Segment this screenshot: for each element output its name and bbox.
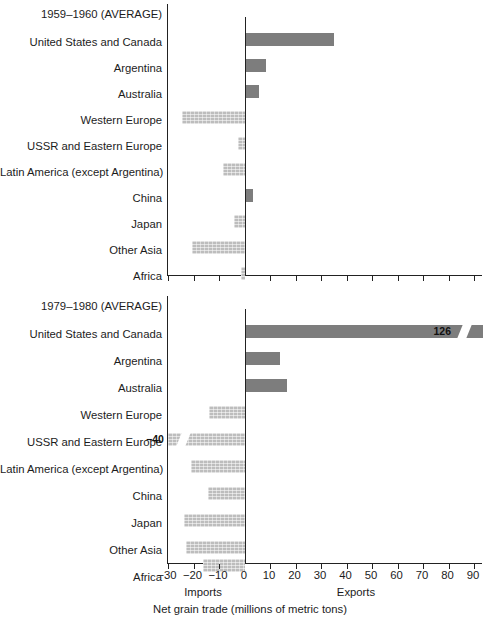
- axis-break-marker: [176, 433, 190, 446]
- row-label-china: China: [0, 490, 162, 502]
- row-label-western-europe: Western Europe: [0, 409, 162, 421]
- chart-panel-1979-1980: 1979–1980 (AVERAGE) United States and Ca…: [0, 292, 486, 619]
- tick-top--10: [219, 276, 220, 281]
- axis-caption-exports: Exports: [316, 586, 396, 598]
- bar-top-other-asia: [192, 241, 245, 254]
- row-label-japan: Japan: [0, 517, 162, 529]
- row-label-japan: Japan: [0, 218, 162, 230]
- tick-top-20: [296, 276, 297, 281]
- tick-top-60: [398, 276, 399, 281]
- row-label-africa: Africa: [0, 270, 162, 282]
- bar-top-japan: [234, 215, 245, 228]
- plot-area-top: [167, 4, 482, 276]
- bar-top-western-europe: [182, 111, 245, 124]
- tick-top-80: [449, 276, 450, 281]
- bar-top-united-states-and-canada: [246, 33, 334, 46]
- plot-area-bottom: 126 −40: [167, 296, 482, 564]
- row-label-argentina: Argentina: [0, 62, 162, 74]
- bar-value-label-united-states-and-canada: 126: [433, 325, 451, 338]
- tick-top-90: [474, 276, 475, 281]
- bar-top-china: [246, 189, 253, 202]
- bar-bottom-ussr-and-eastern-europe: −40: [168, 433, 245, 446]
- bar-top-australia: [246, 85, 259, 98]
- zero-axis-line-bottom: [245, 309, 246, 564]
- row-label-australia: Australia: [0, 88, 162, 100]
- tick-top--20: [194, 276, 195, 281]
- bar-value-label-ussr-and-eastern-europe: −40: [146, 433, 164, 446]
- row-label-ussr-and-eastern-europe: USSR and Eastern Europe: [0, 436, 162, 448]
- bar-top-ussr-and-eastern-europe: [238, 137, 245, 150]
- tick-top-10: [270, 276, 271, 281]
- row-label-united-states-and-canada: United States and Canada: [0, 328, 162, 340]
- tick-label-90: 90: [453, 569, 486, 581]
- tick-top-30: [321, 276, 322, 281]
- tick-top-70: [423, 276, 424, 281]
- zero-axis-line-top: [245, 17, 246, 276]
- row-label-ussr-and-eastern-europe: USSR and Eastern Europe: [0, 140, 162, 152]
- axis-caption-imports: Imports: [163, 586, 243, 598]
- bar-top-argentina: [246, 59, 266, 72]
- row-label-united-states-and-canada: United States and Canada: [0, 36, 162, 48]
- period-label-bottom: 1979–1980 (AVERAGE): [0, 300, 162, 312]
- bar-bottom-china: [208, 487, 245, 500]
- bar-bottom-latin-america: [191, 460, 245, 473]
- bar-top-africa: [241, 267, 245, 280]
- row-label-africa: Africa: [0, 571, 162, 583]
- bar-bottom-argentina: [246, 352, 280, 365]
- period-label-top: 1959–1960 (AVERAGE): [0, 8, 162, 20]
- bar-bottom-australia: [246, 379, 287, 392]
- bar-bottom-other-asia: [186, 541, 245, 554]
- chart-panel-1959-1960: 1959–1960 (AVERAGE) United States and Ca…: [0, 0, 486, 290]
- row-label-latin-america: Latin America (except Argentina): [0, 166, 162, 178]
- axis-break-marker: [457, 325, 471, 338]
- tick-top-50: [372, 276, 373, 281]
- bar-top-latin-america: [223, 163, 245, 176]
- row-label-china: China: [0, 192, 162, 204]
- row-label-latin-america: Latin America (except Argentina): [0, 463, 162, 475]
- bar-bottom-western-europe: [209, 406, 245, 419]
- tick-top-40: [347, 276, 348, 281]
- axis-title: Net grain trade (millions of metric tons…: [100, 603, 400, 615]
- row-label-western-europe: Western Europe: [0, 114, 162, 126]
- tick-top--30: [168, 276, 169, 281]
- row-label-argentina: Argentina: [0, 355, 162, 367]
- row-label-other-asia: Other Asia: [0, 544, 162, 556]
- bar-bottom-united-states-and-canada: 126: [246, 325, 483, 338]
- bar-bottom-japan: [184, 514, 245, 527]
- row-label-australia: Australia: [0, 382, 162, 394]
- row-label-other-asia: Other Asia: [0, 244, 162, 256]
